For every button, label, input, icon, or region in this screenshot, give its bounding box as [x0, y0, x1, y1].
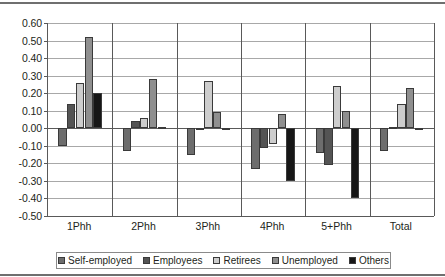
legend-item[interactable]: Self-employed	[58, 255, 132, 266]
legend-label: Employees	[153, 255, 202, 266]
y-axis-tick-label: 0.30	[2, 71, 42, 81]
gridline-vertical	[370, 23, 371, 216]
x-axis-category-label: 2Phh	[111, 220, 175, 232]
legend-item[interactable]: Unemployed	[272, 255, 338, 266]
bar-employees-2phh	[131, 121, 139, 128]
bar-retirees-total	[397, 104, 405, 129]
y-axis-tick-label: 0.50	[2, 36, 42, 46]
y-axis-tick-label: -0.40	[2, 193, 42, 203]
bar-employees-5+phh	[324, 128, 332, 165]
bar-employees-3phh	[196, 128, 204, 130]
gridline-vertical	[305, 23, 306, 216]
bottom-divider	[0, 274, 445, 276]
bar-others-1phh	[93, 93, 101, 128]
legend-item[interactable]: Others	[349, 255, 389, 266]
gridline-vertical	[241, 23, 242, 216]
bar-self-employed-4phh	[251, 128, 259, 168]
y-axis-tick	[44, 58, 48, 59]
legend-item[interactable]: Employees	[143, 255, 202, 266]
y-axis-tick-label: 0.20	[2, 88, 42, 98]
chart-legend: Self-employedEmployeesRetireesUnemployed…	[56, 252, 391, 269]
legend-swatch-icon	[349, 257, 356, 264]
y-axis-tick-label: 0.40	[2, 53, 42, 63]
bar-others-total	[415, 128, 423, 130]
x-axis-category-label: 4Phh	[240, 220, 304, 232]
y-axis-tick-label: -0.50	[2, 211, 42, 221]
y-axis-tick	[44, 128, 48, 129]
gridline-horizontal	[48, 216, 434, 217]
top-divider	[0, 2, 445, 4]
bar-retirees-4phh	[269, 128, 277, 144]
bar-unemployed-2phh	[149, 79, 157, 128]
legend-label: Retirees	[223, 255, 260, 266]
plot-area	[47, 23, 434, 216]
y-axis-tick	[44, 181, 48, 182]
x-axis-category-label: 3Phh	[176, 220, 240, 232]
bar-employees-total	[389, 127, 397, 129]
bar-others-3phh	[222, 128, 230, 130]
bar-retirees-5+phh	[333, 86, 341, 128]
bar-unemployed-4phh	[278, 114, 286, 128]
gridline-vertical	[177, 23, 178, 216]
bar-unemployed-3phh	[213, 112, 221, 128]
legend-swatch-icon	[213, 257, 220, 264]
bar-unemployed-total	[406, 88, 414, 128]
y-axis-tick-label: -0.30	[2, 176, 42, 186]
y-axis-tick-label: 0.10	[2, 106, 42, 116]
y-axis-tick	[44, 146, 48, 147]
y-axis-tick	[44, 93, 48, 94]
bar-retirees-3phh	[204, 81, 212, 128]
gridline-vertical	[112, 23, 113, 216]
x-axis-category-label: 1Phh	[47, 220, 111, 232]
legend-label: Self-employed	[68, 255, 132, 266]
x-axis-category-label: Total	[369, 220, 433, 232]
y-axis-tick	[44, 23, 48, 24]
bar-self-employed-2phh	[123, 128, 131, 151]
y-axis-tick	[44, 111, 48, 112]
y-axis-tick	[44, 198, 48, 199]
plot-right-border	[434, 23, 435, 216]
legend-label: Unemployed	[282, 255, 338, 266]
bar-retirees-1phh	[76, 83, 84, 129]
bar-retirees-2phh	[140, 118, 148, 129]
legend-label: Others	[359, 255, 389, 266]
x-axis-category-label: 5+Phh	[304, 220, 368, 232]
legend-item[interactable]: Retirees	[213, 255, 260, 266]
y-axis-tick-label: -0.20	[2, 158, 42, 168]
legend-swatch-icon	[143, 257, 150, 264]
bar-self-employed-1phh	[58, 128, 66, 146]
legend-swatch-icon	[58, 257, 65, 264]
y-axis-tick	[44, 41, 48, 42]
bar-unemployed-1phh	[85, 37, 93, 128]
bar-employees-4phh	[260, 128, 268, 147]
y-axis-tick-label: 0.00	[2, 123, 42, 133]
legend-swatch-icon	[272, 257, 279, 264]
y-axis-tick	[44, 163, 48, 164]
bar-self-employed-5+phh	[316, 128, 324, 153]
y-axis-tick-label: -0.10	[2, 141, 42, 151]
bar-others-2phh	[158, 127, 166, 129]
bar-others-5+phh	[351, 128, 359, 198]
bar-self-employed-3phh	[187, 128, 195, 154]
y-axis-tick	[44, 76, 48, 77]
chart-figure: 0.600.500.400.300.200.100.00-0.10-0.20-0…	[0, 0, 445, 277]
bar-self-employed-total	[380, 128, 388, 151]
y-axis-tick	[44, 216, 48, 217]
y-axis-tick-label: 0.60	[2, 18, 42, 28]
bar-others-4phh	[286, 128, 294, 181]
bar-employees-1phh	[67, 104, 75, 129]
bar-unemployed-5+phh	[342, 111, 350, 129]
